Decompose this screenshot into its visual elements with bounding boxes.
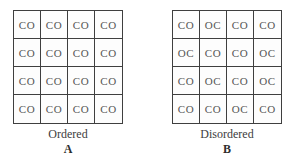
- grid-cell: CO: [68, 95, 95, 123]
- grid-ordered: CO CO CO CO CO CO CO CO CO CO CO CO CO C…: [13, 10, 123, 124]
- grid-cell: CO: [227, 67, 254, 95]
- grid-cell: CO: [41, 67, 68, 95]
- grid-cell: CO: [14, 39, 41, 67]
- grid-cell: CO: [68, 67, 95, 95]
- grid-cell: CO: [41, 95, 68, 123]
- panel-ordered: CO CO CO CO CO CO CO CO CO CO CO CO CO C…: [13, 10, 123, 156]
- grid-cell: CO: [227, 39, 254, 67]
- grid-disordered: CO OC CO CO OC CO CO OC CO OC CO OC CO C…: [172, 10, 282, 124]
- grid-cell: CO: [95, 11, 122, 39]
- grid-cell: CO: [14, 95, 41, 123]
- grid-cell: OC: [173, 39, 200, 67]
- grid-cell: CO: [95, 67, 122, 95]
- grid-cell: CO: [14, 67, 41, 95]
- grid-cell: CO: [200, 95, 227, 123]
- grid-cell: OC: [227, 95, 254, 123]
- grid-cell: OC: [254, 67, 281, 95]
- grid-cell: OC: [200, 11, 227, 39]
- panel-label-a: A: [64, 143, 73, 156]
- grid-cell: CO: [68, 39, 95, 67]
- grid-cell: CO: [68, 11, 95, 39]
- molecular-ordering-figure: CO CO CO CO CO CO CO CO CO CO CO CO CO C…: [0, 0, 300, 156]
- grid-cell: CO: [200, 39, 227, 67]
- grid-cell: CO: [227, 11, 254, 39]
- grid-cell: CO: [95, 95, 122, 123]
- grid-cell: CO: [173, 67, 200, 95]
- panel-disordered: CO OC CO CO OC CO CO OC CO OC CO OC CO C…: [172, 10, 282, 156]
- grid-cell: CO: [254, 95, 281, 123]
- grid-cell: CO: [254, 11, 281, 39]
- grid-cell: OC: [200, 67, 227, 95]
- panel-caption-ordered: Ordered: [48, 128, 87, 141]
- grid-cell: OC: [254, 39, 281, 67]
- grid-cell: CO: [95, 39, 122, 67]
- panel-label-b: B: [223, 143, 231, 156]
- grid-cell: CO: [14, 11, 41, 39]
- grid-cell: CO: [41, 11, 68, 39]
- grid-cell: CO: [173, 95, 200, 123]
- panel-caption-disordered: Disordered: [200, 128, 253, 141]
- grid-cell: CO: [173, 11, 200, 39]
- grid-cell: CO: [41, 39, 68, 67]
